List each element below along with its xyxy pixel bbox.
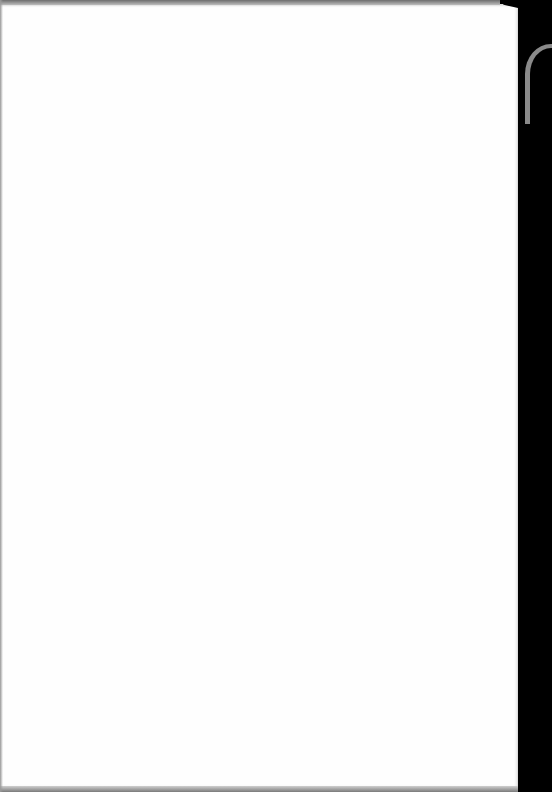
scanned-document xyxy=(0,0,552,792)
blank-page xyxy=(0,4,518,789)
page-curl-edge xyxy=(525,44,552,124)
left-scan-edge xyxy=(0,0,3,792)
bottom-scan-border xyxy=(0,786,518,792)
top-scan-border xyxy=(0,0,500,5)
